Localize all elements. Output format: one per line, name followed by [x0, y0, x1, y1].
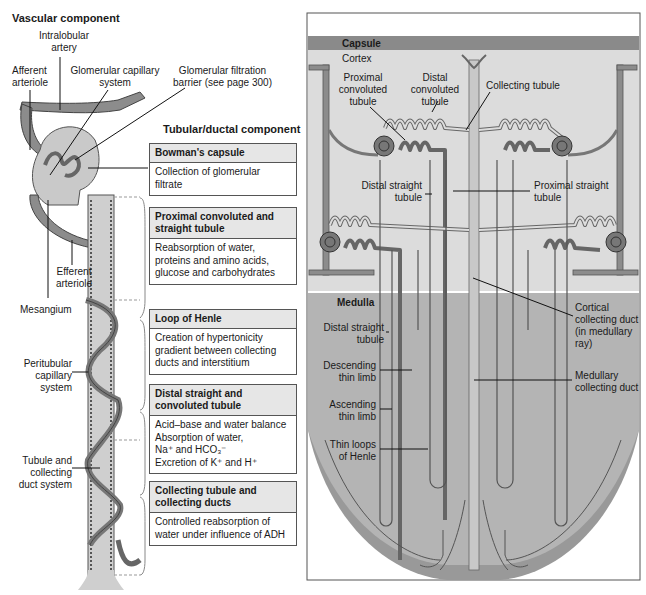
label-line: Ascending: [310, 399, 376, 411]
card-title: Bowman's capsule: [150, 144, 296, 163]
card-collecting-ducts: Collecting tubule and collecting ducts C…: [149, 481, 297, 546]
card-distal-tubule: Distal straight and convoluted tubule Ac…: [149, 384, 297, 474]
card-bowmans-capsule: Bowman's capsule Collection of glomerula…: [149, 143, 297, 196]
label-medullary-collecting-duct: Medullary collecting duct: [575, 370, 638, 394]
body-line: filtrate: [155, 179, 291, 192]
title-line: straight tubule: [155, 223, 291, 235]
card-title: Proximal convoluted and straight tubule: [150, 208, 296, 239]
title-line: convoluted tubule: [155, 400, 291, 412]
label-line: tubule: [338, 96, 388, 108]
label-collecting-tubule: Collecting tubule: [486, 80, 560, 92]
zone-cortex: Cortex: [342, 53, 371, 65]
body-line: Acid–base and water balance: [155, 419, 291, 432]
card-body: Collection of glomerular filtrate: [150, 163, 296, 195]
card-loop-of-henle: Loop of Henle Creation of hypertonicity …: [149, 309, 297, 375]
label-line: convoluted: [410, 84, 460, 96]
label-line: Efferent: [52, 266, 96, 278]
zone-capsule: Capsule: [342, 38, 381, 50]
body-line: Collection of glomerular: [155, 166, 291, 179]
label-line: arteriole: [12, 77, 48, 89]
label-line: Distal straight: [310, 322, 384, 334]
label-line: Medullary: [575, 370, 638, 382]
label-line: Glomerular filtration: [170, 65, 275, 77]
label-line: Descending: [310, 360, 376, 372]
label-glomerular-filtration-barrier: Glomerular filtration barrier (see page …: [170, 65, 275, 89]
label-thin-loops-of-henle: Thin loops of Henle: [310, 439, 376, 463]
label-line: tubule: [310, 334, 384, 346]
label-descending-thin-limb: Descending thin limb: [310, 360, 376, 384]
label-line: artery: [34, 42, 94, 54]
body-line: Creation of hypertonicity: [155, 332, 291, 345]
card-proximal-tubule: Proximal convoluted and straight tubule …: [149, 207, 297, 285]
title-line: Collecting tubule and: [155, 485, 291, 497]
card-title: Distal straight and convoluted tubule: [150, 385, 296, 416]
label-line: Peritubular: [8, 358, 72, 370]
title-line: Loop of Henle: [155, 313, 291, 325]
label-distal-convoluted-tubule: Distal convoluted tubule: [410, 72, 460, 108]
label-line: barrier (see page 300): [170, 77, 275, 89]
label-line: system: [8, 382, 72, 394]
label-line: Proximal straight: [534, 180, 608, 192]
label-line: of Henle: [310, 451, 376, 463]
label-line: Distal: [410, 72, 460, 84]
label-mesangium: Mesangium: [20, 304, 72, 316]
card-body: Reabsorption of water, proteins and amin…: [150, 239, 296, 284]
body-line: Absorption of water,: [155, 432, 291, 445]
body-line: Reabsorption of water,: [155, 242, 291, 255]
label-proximal-convoluted-tubule: Proximal convoluted tubule: [338, 72, 388, 108]
label-line: collecting duct: [575, 382, 638, 394]
body-line: water under influence of ADH: [155, 529, 291, 542]
label-line: Afferent: [12, 65, 48, 77]
body-line: proteins and amino acids,: [155, 255, 291, 268]
label-line: collecting: [8, 467, 72, 479]
label-glomerular-capillary-system: Glomerular capillary system: [65, 65, 165, 89]
body-line: Na⁺ and HCO₃⁻: [155, 444, 291, 457]
label-proximal-straight-tubule: Proximal straight tubule: [534, 180, 608, 204]
label-line: capillary: [8, 370, 72, 382]
label-line: tubule: [344, 192, 422, 204]
label-line: Tubule and: [8, 455, 72, 467]
label-line: thin limb: [310, 411, 376, 423]
label-line: Distal straight: [344, 180, 422, 192]
zone-medulla: Medulla: [337, 297, 374, 309]
label-afferent-arteriole: Afferent arteriole: [12, 65, 48, 89]
label-efferent-arteriole: Efferent arteriole: [52, 266, 96, 290]
label-line: Cortical: [575, 302, 638, 314]
vascular-component-heading: Vascular component: [12, 12, 120, 24]
card-body: Creation of hypertonicity gradient betwe…: [150, 329, 296, 374]
label-line: thin limb: [310, 372, 376, 384]
body-line: Controlled reabsorption of: [155, 516, 291, 529]
body-line: ducts and interstitium: [155, 357, 291, 370]
title-line: Proximal convoluted and: [155, 211, 291, 223]
label-line: Intralobular: [34, 30, 94, 42]
label-line: duct system: [8, 479, 72, 491]
label-intralobular-artery: Intralobular artery: [34, 30, 94, 54]
label-distal-straight-tubule-medulla: Distal straight tubule: [310, 322, 384, 346]
label-line: tubule: [534, 192, 608, 204]
label-line: convoluted: [338, 84, 388, 96]
label-line: collecting duct: [575, 314, 638, 326]
label-distal-straight-tubule-cortex: Distal straight tubule: [344, 180, 422, 204]
card-body: Controlled reabsorption of water under i…: [150, 513, 296, 545]
title-line: Bowman's capsule: [155, 147, 291, 159]
label-line: (in medullary: [575, 326, 638, 338]
label-ascending-thin-limb: Ascending thin limb: [310, 399, 376, 423]
label-cortical-collecting-duct: Cortical collecting duct (in medullary r…: [575, 302, 638, 350]
label-peritubular-capillary-system: Peritubular capillary system: [8, 358, 72, 394]
body-line: Excretion of K⁺ and H⁺: [155, 457, 291, 470]
label-tubule-and-collecting-duct: Tubule and collecting duct system: [8, 455, 72, 491]
card-title: Loop of Henle: [150, 310, 296, 329]
body-line: glucose and carbohydrates: [155, 267, 291, 280]
label-line: Proximal: [338, 72, 388, 84]
card-body: Acid–base and water balance Absorption o…: [150, 416, 296, 473]
label-line: arteriole: [52, 278, 96, 290]
label-line: tubule: [410, 96, 460, 108]
body-line: gradient between collecting: [155, 345, 291, 358]
label-line: ray): [575, 338, 638, 350]
label-line: Thin loops: [310, 439, 376, 451]
label-line: Glomerular capillary: [65, 65, 165, 77]
tubular-component-heading: Tubular/ductal component: [163, 123, 300, 135]
title-line: collecting ducts: [155, 497, 291, 509]
label-line: system: [65, 77, 165, 89]
card-title: Collecting tubule and collecting ducts: [150, 482, 296, 513]
